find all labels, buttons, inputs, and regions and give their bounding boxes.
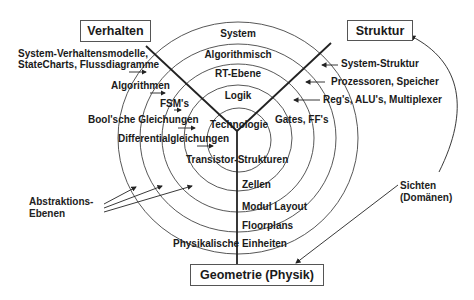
geometry-logic: Zellen bbox=[242, 179, 271, 190]
geometry-domain-label: Geometrie (Physik) bbox=[200, 268, 314, 282]
level-technology: Technologie bbox=[210, 119, 268, 130]
structure-algorithmic: Prozessoren, Speicher bbox=[331, 76, 439, 87]
structure-logic: Gates, FF's bbox=[275, 114, 329, 125]
structure-system: System-Struktur bbox=[341, 58, 419, 69]
level-system: System bbox=[220, 28, 256, 39]
level-rt: RT-Ebene bbox=[215, 68, 261, 79]
behavior-algorithmic: Algorithmen bbox=[111, 80, 170, 91]
geometry-system: Physikalische Einheiten bbox=[173, 238, 287, 249]
structure-domain-box: Struktur bbox=[347, 20, 413, 41]
structure-rt: Reg's, ALU's, Multiplexer bbox=[323, 94, 442, 105]
level-algorithmic: Algorithmisch bbox=[204, 49, 271, 60]
behavior-domain-box: Verhalten bbox=[80, 20, 151, 42]
geometry-algorithmic: Floorplans bbox=[242, 220, 293, 231]
behavior-system-line1: System-Verhaltensmodelle, bbox=[18, 48, 148, 59]
structure-domain-label: Struktur bbox=[356, 24, 405, 38]
behavior-rt: FSM's bbox=[160, 98, 189, 109]
views-label-line1: Sichten bbox=[400, 180, 436, 192]
y-chart-graphics bbox=[0, 0, 474, 300]
abstraction-levels-label-line1: Abstraktions- bbox=[29, 196, 93, 208]
geometry-technology: Transistor-Strukturen bbox=[186, 154, 288, 165]
views-label-line2: (Domänen) bbox=[400, 192, 452, 204]
behavior-logic: Bool'sche Gleichungen bbox=[88, 114, 199, 125]
abstraction-levels-label-line2: Ebenen bbox=[29, 208, 65, 220]
geometry-rt: Modul Layout bbox=[242, 201, 307, 212]
behavior-system-line2: StateCharts, Flussdiagramme bbox=[18, 59, 159, 70]
geometry-domain-box: Geometrie (Physik) bbox=[190, 264, 324, 286]
behavior-domain-label: Verhalten bbox=[87, 24, 143, 38]
views-pointers bbox=[296, 36, 457, 263]
abstraction-arrows bbox=[104, 186, 192, 212]
behavior-technology: Differentialgleichungen bbox=[118, 133, 229, 144]
level-logic: Logik bbox=[225, 90, 252, 101]
